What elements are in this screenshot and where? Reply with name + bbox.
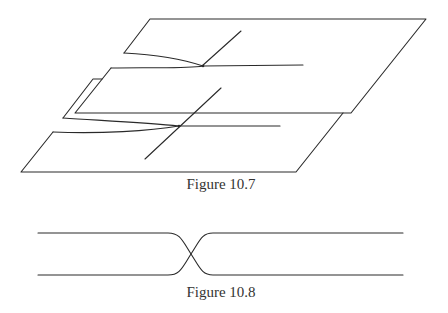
bottom-cusp-point — [178, 125, 181, 128]
top-cusp-point — [202, 65, 205, 68]
bottom-cusp-lower-curve — [53, 126, 179, 133]
bottom-sheet — [21, 113, 343, 172]
figure-10-8-caption: Figure 10.8 — [186, 284, 255, 301]
top-horizontal-line — [203, 65, 303, 66]
lower-strand — [38, 233, 403, 275]
top-cusp-lower-curve — [111, 66, 203, 68]
left-tab — [63, 79, 102, 118]
figure-10-7-drawing — [0, 0, 448, 313]
top-diagonal-line — [202, 31, 241, 66]
figure-10-7-caption: Figure 10.7 — [186, 176, 255, 193]
top-cusp-upper-curve — [124, 53, 203, 66]
upper-strand — [38, 233, 403, 275]
